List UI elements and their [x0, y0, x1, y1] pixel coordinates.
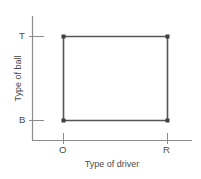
y-axis-title: Type of ball [14, 39, 23, 119]
interaction-plot-figure: T B O R Type of ball Type of driver [0, 0, 201, 179]
data-point-marker [62, 119, 66, 123]
plot-canvas [0, 0, 201, 179]
data-point-marker [166, 35, 170, 39]
data-point-marker [166, 119, 170, 123]
x-axis-title: Type of driver [32, 160, 192, 169]
data-point-marker [62, 35, 66, 39]
x-tick-label-left: O [59, 145, 66, 155]
x-tick-label-right: R [163, 145, 170, 155]
